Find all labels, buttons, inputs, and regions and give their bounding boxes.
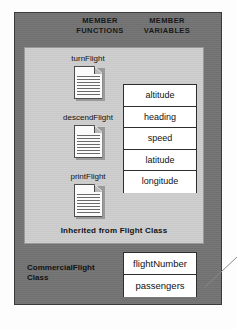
member-variable-passengers[interactable]: passengers [124,275,196,297]
inherited-member-variables-list: altitude heading speed latitude longitud… [123,84,197,193]
member-function-descendflight[interactable]: descendFlight [40,113,136,158]
diagram-canvas: MEMBER FUNCTIONS MEMBER VARIABLES turnFl… [0,0,237,329]
commercialflight-member-variables-list: flightNumber passengers [123,252,197,297]
member-function-turnflight[interactable]: turnFlight [40,54,136,99]
member-variable-flightnumber[interactable]: flightNumber [124,253,196,275]
commercialflight-class-label: CommercialFlight Class [27,263,119,282]
member-variable-latitude[interactable]: latitude [124,150,196,172]
document-icon [74,66,103,99]
member-variables-heading-line1: MEMBER [124,16,210,26]
document-icon-lines [77,135,100,155]
commercialflight-class-label-line1: CommercialFlight [27,263,119,273]
member-variable-heading[interactable]: heading [124,107,196,129]
member-variable-speed[interactable]: speed [124,128,196,150]
member-variable-longitude[interactable]: longitude [124,171,196,193]
member-variables-heading-line2: VARIABLES [124,26,210,36]
document-icon [74,184,103,217]
member-function-label: descendFlight [40,113,136,123]
member-function-printflight[interactable]: printFlight [40,172,136,217]
document-icon-lines [77,76,100,96]
document-icon-lines [77,194,100,214]
member-variables-heading: MEMBER VARIABLES [124,16,210,35]
member-function-label: turnFlight [40,54,136,64]
commercialflight-class-label-line2: Class [27,273,119,283]
document-icon [74,125,103,158]
member-function-label: printFlight [40,172,136,182]
member-variable-altitude[interactable]: altitude [124,85,196,107]
inherited-from-flight-class-caption: Inherited from Flight Class [24,226,204,235]
